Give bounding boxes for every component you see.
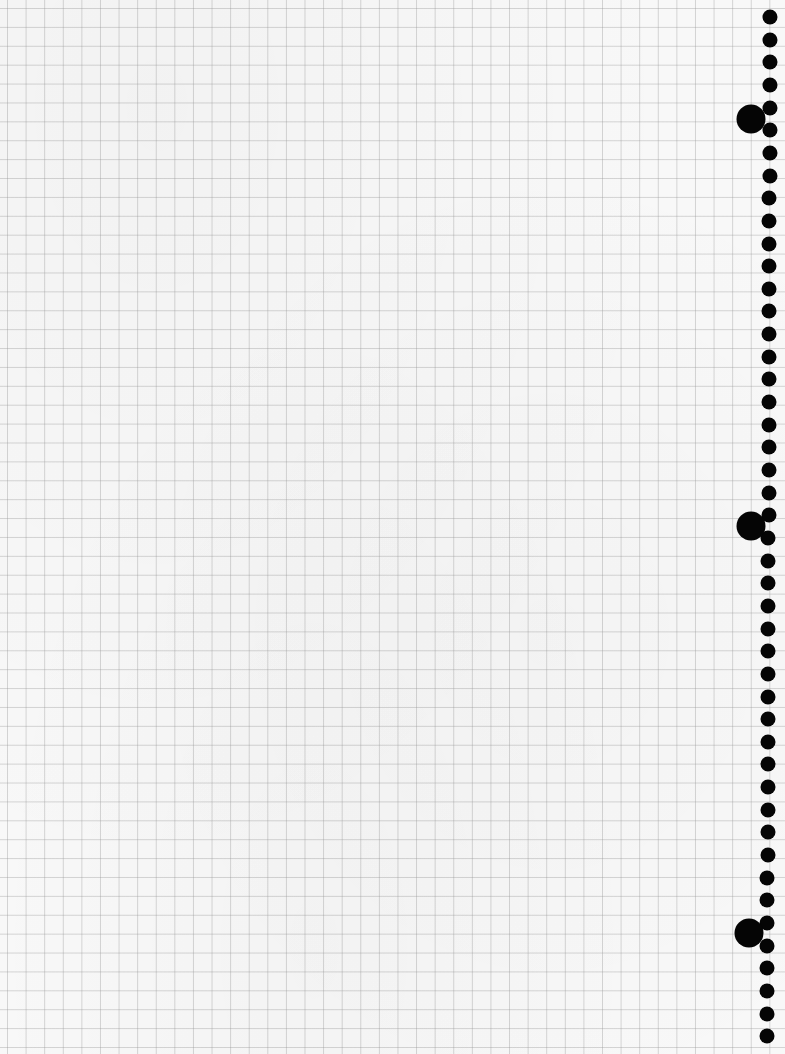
binding-hole-small xyxy=(762,123,777,138)
binding-hole-small xyxy=(762,77,777,92)
binding-hole-small xyxy=(761,621,776,636)
binding-hole-small xyxy=(762,281,777,296)
binding-hole-small xyxy=(762,236,777,251)
binding-hole-small xyxy=(760,734,775,749)
binding-hole-small xyxy=(761,576,776,591)
binding-hole-small xyxy=(761,395,776,410)
binding-hole-small xyxy=(761,440,776,455)
binding-hole-large xyxy=(737,512,766,541)
binding-hole-small xyxy=(760,712,775,727)
binding-hole-small xyxy=(761,463,776,478)
binding-hole-small xyxy=(762,145,777,160)
binding-hole-small xyxy=(762,55,777,70)
binding-hole-small xyxy=(761,644,776,659)
binding-hole-large xyxy=(735,919,764,948)
binding-hole-small xyxy=(762,32,777,47)
binding-hole-small xyxy=(760,1029,775,1044)
binding-hole-small xyxy=(762,168,777,183)
binding-hole-small xyxy=(760,961,775,976)
binding-hole-small xyxy=(761,417,776,432)
binding-hole-small xyxy=(760,870,775,885)
binding-hole-small xyxy=(763,10,778,25)
binding-hole-small xyxy=(761,598,776,613)
binding-hole-small xyxy=(760,1006,775,1021)
binding-hole-small xyxy=(760,757,775,772)
binding-hole-small xyxy=(760,893,775,908)
grid-lines xyxy=(0,0,785,1054)
binding-hole-small xyxy=(760,825,775,840)
binding-hole-small xyxy=(762,191,777,206)
binding-hole-large xyxy=(737,105,766,134)
binding-hole-small xyxy=(762,259,777,274)
binding-hole-small xyxy=(762,349,777,364)
binding-hole-small xyxy=(760,848,775,863)
binding-hole-small xyxy=(760,780,775,795)
binding-hole-small xyxy=(760,802,775,817)
binding-hole-small xyxy=(762,304,777,319)
binding-hole-small xyxy=(761,553,776,568)
binding-hole-small xyxy=(762,327,777,342)
binding-hole-small xyxy=(761,689,776,704)
binding-hole-small xyxy=(761,372,776,387)
binding-hole-small xyxy=(761,485,776,500)
binding-hole-small xyxy=(760,938,775,953)
graph-paper-sheet xyxy=(0,0,785,1054)
binding-hole-small xyxy=(761,666,776,681)
binding-hole-small xyxy=(760,983,775,998)
binding-hole-small xyxy=(762,213,777,228)
